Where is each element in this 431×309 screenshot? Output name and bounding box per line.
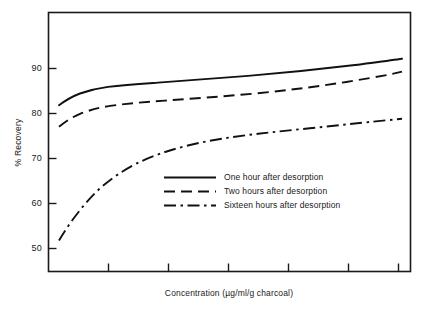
legend-label-sixteen-hours: Sixteen hours after desorption bbox=[224, 201, 340, 210]
chart-canvas bbox=[0, 0, 431, 309]
y-axis-label: % Recovery bbox=[14, 108, 23, 178]
y-tick-label-50: 50 bbox=[18, 244, 42, 253]
y-tick-label-60: 60 bbox=[18, 199, 42, 208]
legend-label-one-hour: One hour after desorption bbox=[224, 173, 323, 182]
y-axis-ticks bbox=[49, 69, 57, 249]
series-line-two-hours bbox=[59, 72, 402, 127]
plot-frame bbox=[49, 13, 411, 272]
y-tick-label-90: 90 bbox=[18, 64, 42, 73]
legend-line-samples bbox=[164, 178, 216, 206]
legend-label-two-hours: Two hours after desorption bbox=[224, 187, 327, 196]
x-axis-label: Concentration (µg/ml/g charcoal) bbox=[48, 288, 410, 298]
x-axis-ticks bbox=[109, 264, 399, 272]
figure-chart-recovery-vs-concentration: 90 80 70 60 50 % Recovery Concentration … bbox=[0, 0, 431, 309]
